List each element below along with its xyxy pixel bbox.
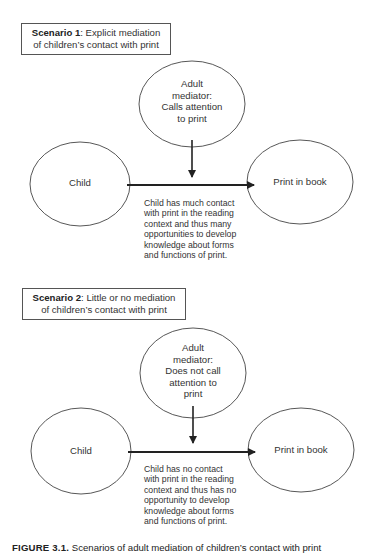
child-label-2: Child [51,445,111,457]
print-label-1: Print in book [250,176,350,188]
mediator-label-2: Adult mediator: Does not call attention … [143,342,243,400]
scenario-2-title: Scenario 2 [33,292,82,303]
outcome-text-2: Child has no contact with print in the r… [144,464,254,526]
scenario-1-label: Scenario 1: Explicit mediation of childr… [21,23,171,55]
outcome-text-1: Child has much contact with print in the… [144,198,254,260]
child-label-1: Child [50,177,110,189]
scenario-2-label: Scenario 2: Little or no mediation of ch… [22,288,186,320]
mediator-label-1: Adult mediator: Calls attention to print [142,78,242,124]
scenario-1-title: Scenario 1 [32,27,81,38]
figure-caption-text: Scenarios of adult mediation of children… [72,542,321,553]
print-label-2: Print in book [251,444,351,456]
figure-caption: FIGURE 3.1. Scenarios of adult mediation… [12,542,321,553]
figure-number: FIGURE 3.1. [12,542,69,553]
